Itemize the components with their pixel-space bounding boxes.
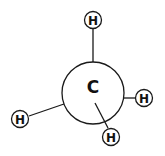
- hydrogen-left-label: H: [15, 113, 25, 127]
- carbon-label: C: [87, 77, 99, 97]
- hydrogen-right-label: H: [139, 92, 149, 106]
- hydrogen-top: H: [85, 12, 102, 29]
- hydrogen-top-label: H: [88, 14, 98, 28]
- bond-left: [29, 104, 64, 116]
- hydrogen-right: H: [136, 90, 153, 107]
- newman-projection-diagram: C H H H H: [0, 0, 165, 156]
- hydrogen-bottom: H: [103, 129, 120, 146]
- hydrogen-bottom-label: H: [106, 131, 116, 145]
- hydrogen-left: H: [12, 111, 29, 128]
